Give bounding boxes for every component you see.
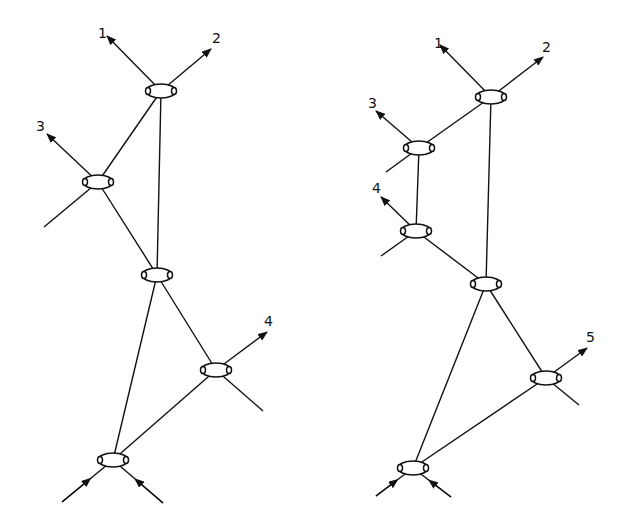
edge-a-c [157,91,161,275]
outgoing-line-label: 2 [542,39,551,55]
network-diagram-canvas: 1234 12345 [0,0,621,516]
outgoing-line-label: 1 [98,25,107,41]
outgoing-arrow-icon [440,45,491,97]
edge-b-c [98,182,157,275]
edge-b-c [416,148,419,231]
outgoing-line-label: 3 [368,95,377,111]
vertex-node-c [401,224,432,238]
edge-c-d [416,231,486,284]
incoming-arrow-icon [432,483,451,498]
outgoing-line-label: 2 [212,30,221,46]
edge-a-b [419,97,491,148]
outgoing-line-label: 1 [434,35,443,51]
incoming-arrow-icon [138,482,163,504]
edge-a-b [98,91,161,182]
vertex-node-e [98,453,129,467]
outgoing-line-label: 5 [586,329,595,345]
edge-d-f [413,284,486,468]
edge-c-d [157,275,216,370]
edge-d-e [113,370,216,460]
vertex-node-c [142,268,173,282]
vertex-node-d [201,363,232,377]
edge-d-e [486,284,546,378]
vertex-node-d [471,277,502,291]
vertex-node-b [83,175,114,189]
outgoing-line-label: 4 [264,313,273,329]
incoming-arrow-icon [376,482,395,496]
edge-c-e [113,275,157,460]
vertex-node-e [531,371,562,385]
outgoing-line-label: 3 [36,118,45,134]
outgoing-arrow-icon [47,134,98,182]
outgoing-line-label: 4 [372,180,381,196]
incoming-arrow-icon [62,481,88,502]
left-diagram: 1234 [36,25,273,503]
external-line-stub [44,182,98,227]
right-diagram: 12345 [368,35,595,497]
vertex-node-f [398,461,429,475]
edge-a-d [486,97,491,284]
vertex-node-b [404,141,435,155]
edge-e-f [413,378,546,468]
vertex-node-a [146,84,177,98]
vertex-node-a [476,90,507,104]
outgoing-arrow-icon [107,36,161,91]
